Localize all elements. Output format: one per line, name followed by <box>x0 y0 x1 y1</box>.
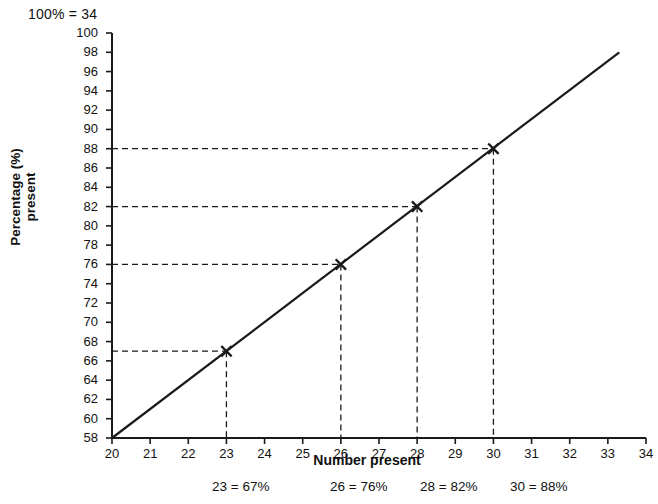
point-annotation: 28 = 82% <box>420 479 477 494</box>
y-tick-label: 84 <box>64 180 98 193</box>
y-tick-label: 58 <box>64 431 98 444</box>
y-tick-label: 78 <box>64 238 98 251</box>
y-tick-label: 92 <box>64 103 98 116</box>
y-tick-label: 60 <box>64 412 98 425</box>
y-tick-label: 98 <box>64 45 98 58</box>
y-tick-label: 66 <box>64 354 98 367</box>
y-tick-label: 68 <box>64 335 98 348</box>
y-tick-label: 70 <box>64 315 98 328</box>
chart-container: 100% = 34 Percentage (%) present 5860626… <box>0 0 658 504</box>
y-tick-label: 62 <box>64 392 98 405</box>
data-line <box>112 52 619 438</box>
y-tick-label: 80 <box>64 219 98 232</box>
point-annotation: 26 = 76% <box>330 479 387 494</box>
y-tick-label: 100 <box>64 26 98 39</box>
y-tick-label: 72 <box>64 296 98 309</box>
y-tick-label: 82 <box>64 200 98 213</box>
x-axis-title: Number present <box>112 452 622 468</box>
annotation-row: 23 = 67%26 = 76%28 = 82%30 = 88% <box>0 479 658 499</box>
y-tick-label: 86 <box>64 161 98 174</box>
point-annotation: 23 = 67% <box>212 479 269 494</box>
x-tick-label: 34 <box>629 447 658 460</box>
y-tick-label: 64 <box>64 373 98 386</box>
y-tick-label: 90 <box>64 122 98 135</box>
trend-line <box>112 52 619 438</box>
y-tick-label: 88 <box>64 142 98 155</box>
y-tick-label: 96 <box>64 65 98 78</box>
y-tick-label: 74 <box>64 277 98 290</box>
plot-canvas <box>0 0 658 504</box>
y-tick-label: 94 <box>64 84 98 97</box>
point-annotation: 30 = 88% <box>510 479 567 494</box>
y-tick-label: 76 <box>64 257 98 270</box>
